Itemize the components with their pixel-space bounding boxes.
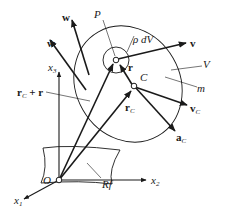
label-P: P: [93, 8, 101, 20]
label-r: r: [128, 61, 133, 73]
label-x1: x1: [13, 194, 22, 208]
label-aC: aC: [176, 131, 187, 145]
label-C: C: [140, 71, 148, 83]
P-leader: [103, 20, 115, 56]
label-rC: rC: [125, 101, 135, 115]
diagram-canvas: w ẇ P ρ dV v r C V m x3 rC + r rC vC aC …: [0, 0, 231, 216]
V-leader: [171, 66, 202, 70]
label-vC: vC: [190, 102, 201, 116]
label-V: V: [203, 58, 211, 70]
label-x3: x3: [47, 61, 57, 75]
point-P: [113, 57, 119, 63]
point-O: [56, 177, 62, 183]
label-m: m: [197, 82, 205, 94]
rC-plus-r-leader: [46, 92, 90, 101]
Rf-leader: [87, 163, 101, 178]
label-rho-dV: ρ dV: [132, 33, 155, 45]
label-rC-plus-r: rC + r: [17, 86, 43, 100]
label-v: v: [190, 37, 196, 49]
label-w: w: [62, 11, 70, 23]
label-x2: x2: [150, 174, 160, 188]
label-w-dot: ẇ: [47, 37, 55, 49]
v-vector: [118, 43, 186, 59]
point-C: [131, 83, 137, 89]
label-O: O: [43, 174, 51, 186]
